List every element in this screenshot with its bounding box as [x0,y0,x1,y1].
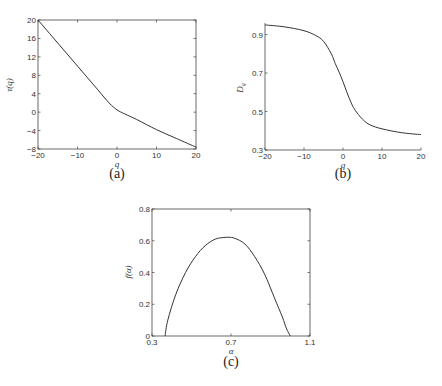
y-tick-label: 0.8 [139,205,151,214]
x-tick-label: 20 [417,152,426,161]
y-axis-label: τ(q) [4,78,14,92]
figure-caption: (c) [223,354,239,370]
figure-caption: (a) [109,166,125,182]
data-line-Dq [265,25,421,135]
figure: −20−1001020201612840−4−8qτ(q)(a)−20−1001… [0,0,442,386]
y-tick-label: 20 [27,16,36,25]
y-axis-label: Dq [235,83,246,94]
y-tick-label: 0.3 [252,146,264,155]
x-tick-label: 20 [192,151,201,160]
y-tick-label: 0.7 [252,69,264,78]
y-tick-label: 16 [27,34,36,43]
y-tick-label: 0 [146,332,151,341]
data-line-f_alpha [165,237,290,336]
y-axis-label: f(α) [123,265,133,278]
x-tick-label: 10 [152,151,161,160]
y-tick-label: 0.6 [139,237,151,246]
y-tick-label: 0.5 [252,108,264,117]
chart-a: −20−1001020201612840−4−8qτ(q)(a) [4,16,201,182]
y-tick-label: −4 [27,127,37,136]
plot-frame [152,209,310,336]
chart-b: −20−10010200.90.70.50.3qDq(b) [235,23,426,182]
y-tick-label: 0.2 [139,300,151,309]
x-tick-label: −10 [71,151,85,160]
x-tick-label: −10 [297,152,311,161]
y-tick-label: 8 [32,71,37,80]
plot-frame [38,20,196,149]
figure-caption: (b) [335,166,352,182]
y-tick-label: 0.9 [252,31,264,40]
x-tick-label: 10 [378,152,387,161]
y-tick-label: −8 [27,145,37,154]
y-tick-label: 0.4 [139,269,151,278]
y-tick-label: 4 [32,90,37,99]
x-tick-label: 1.1 [304,338,316,347]
y-tick-label: 12 [27,53,36,62]
chart-c: 0.30.71.10.80.60.40.20αf(α)(c) [123,205,316,370]
y-tick-label: 0 [32,108,37,117]
data-line-tau [38,20,196,147]
